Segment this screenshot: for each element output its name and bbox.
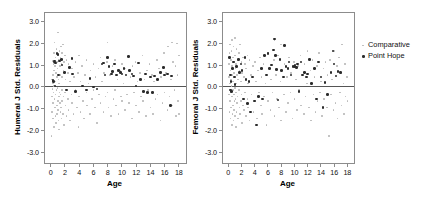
x-axis-tick: [228, 164, 229, 167]
data-point-point-hope: [267, 52, 270, 55]
data-point-comparative: [328, 135, 330, 137]
data-point-point-hope: [283, 44, 286, 47]
panel-humeral: Humeral J Std. Residuals Age -3.0-2.0-1.…: [0, 0, 200, 199]
data-point-comparative: [53, 126, 55, 128]
data-point-comparative: [54, 107, 56, 109]
data-point-point-hope: [287, 67, 290, 70]
data-point-comparative: [139, 72, 141, 74]
data-point-comparative: [131, 118, 133, 120]
data-point-comparative: [251, 94, 253, 96]
legend-label-point-hope: Point Hope: [368, 51, 405, 60]
data-point-point-hope: [92, 86, 95, 89]
data-point-comparative: [232, 57, 234, 59]
data-point-comparative: [61, 52, 63, 54]
data-point-comparative: [346, 76, 348, 78]
data-point-comparative: [94, 107, 96, 109]
data-point-comparative: [61, 89, 63, 91]
data-point-comparative: [286, 76, 288, 78]
data-point-comparative: [56, 113, 58, 115]
x-axis-tick: [178, 164, 179, 167]
data-point-comparative: [237, 96, 239, 98]
data-point-point-hope: [322, 106, 325, 109]
data-point-point-hope: [71, 73, 74, 76]
x-axis-tick: [241, 164, 242, 167]
y-axis-tick-label: 1.0: [17, 61, 39, 70]
y-axis-tick: [41, 65, 44, 66]
data-point-comparative: [231, 96, 233, 98]
data-point-comparative: [114, 59, 116, 61]
data-point-comparative: [249, 59, 251, 61]
data-point-comparative: [81, 65, 83, 67]
data-point-comparative: [167, 109, 169, 111]
data-point-point-hope: [255, 124, 258, 127]
data-point-comparative: [228, 63, 230, 65]
data-point-comparative: [230, 118, 232, 120]
data-point-comparative: [80, 111, 82, 113]
data-point-comparative: [315, 111, 317, 113]
y-axis-tick-label: -3.0: [17, 148, 39, 157]
data-point-comparative: [152, 113, 154, 115]
data-point-comparative: [307, 50, 309, 52]
x-axis-tick: [64, 164, 65, 167]
data-point-comparative: [137, 81, 139, 83]
x-axis-title-femoral: Age: [222, 179, 353, 188]
data-point-comparative: [277, 55, 279, 57]
data-point-comparative: [61, 100, 63, 102]
data-point-comparative: [347, 100, 349, 102]
data-point-comparative: [177, 100, 179, 102]
data-point-comparative: [58, 129, 60, 131]
data-point-comparative: [61, 76, 63, 78]
data-point-comparative: [278, 107, 280, 109]
data-point-point-hope: [273, 38, 276, 41]
data-point-point-hope: [228, 56, 231, 59]
x-axis-tick: [164, 164, 165, 167]
data-point-point-hope: [339, 71, 342, 74]
data-point-comparative: [233, 72, 235, 74]
data-point-comparative: [234, 37, 236, 39]
data-point-comparative: [294, 98, 296, 100]
legend-marker-point-hope-icon: [362, 55, 365, 58]
data-point-comparative: [55, 115, 57, 117]
data-point-comparative: [336, 65, 338, 67]
data-point-comparative: [95, 76, 97, 78]
y-axis-tick-label: 2.0: [17, 39, 39, 48]
data-point-comparative: [73, 113, 75, 115]
data-point-comparative: [270, 79, 272, 81]
data-point-comparative: [130, 76, 132, 78]
data-point-comparative: [314, 76, 316, 78]
data-point-point-hope: [123, 67, 126, 70]
data-point-comparative: [312, 59, 314, 61]
data-point-comparative: [107, 42, 109, 44]
data-point-comparative: [88, 83, 90, 85]
data-point-comparative: [145, 115, 147, 117]
data-point-comparative: [228, 94, 230, 96]
data-point-point-hope: [268, 67, 271, 70]
data-point-point-hope: [300, 61, 303, 64]
data-point-comparative: [310, 70, 312, 72]
data-point-comparative: [57, 109, 59, 111]
data-point-comparative: [239, 44, 241, 46]
data-point-comparative: [249, 120, 251, 122]
data-point-comparative: [234, 87, 236, 89]
data-point-comparative: [234, 55, 236, 57]
data-point-comparative: [241, 94, 243, 96]
data-point-point-hope: [162, 66, 165, 69]
data-point-point-hope: [108, 65, 111, 68]
data-point-point-hope: [315, 98, 318, 101]
y-axis-tick: [41, 86, 44, 87]
data-point-comparative: [55, 57, 57, 59]
x-axis-tick: [93, 164, 94, 167]
data-point-point-hope: [306, 73, 309, 76]
data-point-comparative: [158, 68, 160, 70]
data-point-comparative: [113, 98, 115, 100]
data-point-comparative: [238, 89, 240, 91]
data-point-point-hope: [111, 70, 114, 73]
y-axis-tick-label: 0.0: [195, 82, 217, 91]
data-point-point-hope: [296, 63, 299, 66]
data-point-comparative: [296, 109, 298, 111]
data-point-comparative: [146, 70, 148, 72]
data-point-comparative: [229, 44, 231, 46]
data-point-comparative: [258, 92, 260, 94]
data-point-comparative: [263, 63, 265, 65]
data-point-comparative: [123, 83, 125, 85]
